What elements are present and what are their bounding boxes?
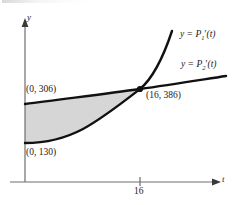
curve-label-p2-prime: y = P2′(t) — [181, 60, 217, 71]
curve-label-p1-prime: y = P1′(t) — [180, 30, 216, 41]
intersection-point-marker — [137, 86, 143, 92]
curve-label-p2-function: P2′(t) — [196, 59, 216, 69]
curve-label-p2-argument: (t) — [208, 59, 217, 69]
t-axis-label: t — [222, 175, 225, 184]
y-axis-label: y — [27, 13, 31, 22]
t-axis-arrowhead — [212, 178, 221, 185]
curve-label-p2-lhs: y — [181, 59, 185, 69]
curve-label-p1-lhs: y — [180, 29, 184, 39]
curve-label-p1-equals: = — [187, 29, 193, 39]
curve-label-p2-equals: = — [188, 59, 194, 69]
point-label-p2-intercept: (0, 306) — [26, 85, 56, 95]
curve-label-p1-argument: (t) — [207, 29, 216, 39]
x-tick-label-16: 16 — [134, 187, 144, 197]
graph-figure: y t y = P1′(t) y = P2′(t) (0, 306) (16, … — [0, 0, 232, 205]
point-label-p1-intercept: (0, 130) — [26, 148, 56, 158]
curve-label-p1-function: P1′(t) — [195, 29, 215, 39]
point-label-intersection: (16, 386) — [146, 91, 181, 101]
